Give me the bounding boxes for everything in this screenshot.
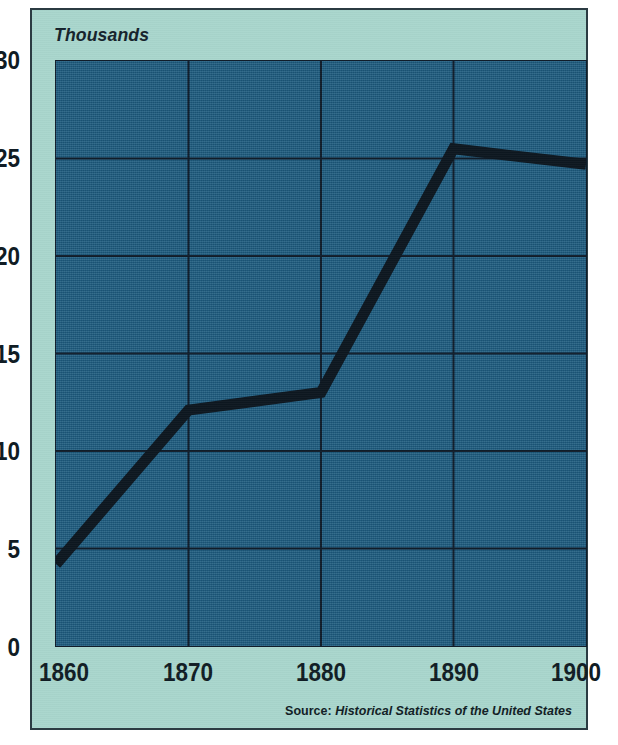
x-tick-1880: 1880: [296, 658, 346, 687]
chart-frame: Thousands 051015202530 18601870188018901…: [30, 8, 588, 730]
x-tick-1860: 1860: [39, 658, 89, 687]
source-note: Source: Historical Statistics of the Uni…: [285, 704, 572, 718]
x-tick-1900: 1900: [551, 658, 601, 687]
cut-off-title-text: ·: [306, 0, 312, 4]
plot-area: [55, 60, 587, 647]
y-axis-unit-label: Thousands: [54, 24, 149, 46]
source-label: Source:: [285, 704, 332, 718]
y-tick-15: 15: [0, 339, 20, 368]
cut-off-title: ·: [31, 0, 587, 4]
x-tick-1870: 1870: [163, 658, 213, 687]
x-tick-1890: 1890: [429, 658, 479, 687]
y-tick-5: 5: [0, 535, 20, 564]
y-tick-0: 0: [0, 633, 20, 662]
y-tick-10: 10: [0, 437, 20, 466]
y-tick-30: 30: [0, 46, 20, 75]
chart-canvas: [56, 61, 586, 646]
source-title: Historical Statistics of the United Stat…: [335, 704, 572, 718]
y-tick-25: 25: [0, 143, 20, 172]
y-tick-20: 20: [0, 241, 20, 270]
chart-figure: · Thousands 051015202530 186018701880189…: [0, 0, 618, 745]
